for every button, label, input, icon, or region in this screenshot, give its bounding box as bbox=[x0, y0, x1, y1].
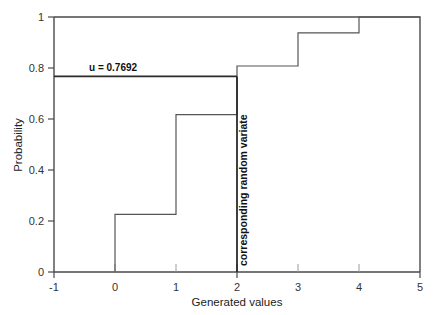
chart-figure: 0 0.2 0.4 0.6 0.8 1 -1 0 1 2 3 4 5 Gener… bbox=[0, 0, 438, 315]
x-tick-label-1: 1 bbox=[173, 281, 179, 293]
x-axis-title: Generated values bbox=[192, 296, 283, 308]
x-tick-label-3: 3 bbox=[295, 281, 301, 293]
y-tick-marks bbox=[48, 17, 54, 272]
x-tick-label-4: 4 bbox=[356, 281, 362, 293]
y-tick-label-0-4: 0.4 bbox=[29, 164, 44, 176]
random-variate-label: corresponding random variate bbox=[237, 114, 249, 266]
y-axis-title: Probability bbox=[12, 118, 24, 172]
cdf-step-series bbox=[115, 17, 420, 272]
y-tick-label-0: 0 bbox=[38, 266, 44, 278]
y-tick-label-0-6: 0.6 bbox=[29, 113, 44, 125]
y-tick-labels: 0 0.2 0.4 0.6 0.8 1 bbox=[29, 11, 44, 278]
x-tick-label-5: 5 bbox=[417, 281, 423, 293]
cdf-step-plot: 0 0.2 0.4 0.6 0.8 1 -1 0 1 2 3 4 5 Gener… bbox=[0, 0, 438, 315]
x-tick-label-minus1: -1 bbox=[49, 281, 59, 293]
x-tick-labels: -1 0 1 2 3 4 5 bbox=[49, 281, 423, 293]
x-tick-label-2: 2 bbox=[234, 281, 240, 293]
u-level-label: u = 0.7692 bbox=[89, 62, 138, 73]
y-tick-label-0-8: 0.8 bbox=[29, 62, 44, 74]
y-tick-label-0-2: 0.2 bbox=[29, 215, 44, 227]
y-tick-label-1: 1 bbox=[38, 11, 44, 23]
x-tick-label-0: 0 bbox=[112, 281, 118, 293]
